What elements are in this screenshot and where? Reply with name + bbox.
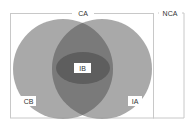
- svg-text:CB: CB: [24, 98, 34, 105]
- ca-label: CA: [72, 8, 94, 18]
- cb-label: CB: [21, 96, 36, 106]
- venn-diagram: CA NCA IB CB IA: [0, 0, 193, 127]
- nca-label: NCA: [159, 8, 182, 18]
- svg-text:CA: CA: [78, 10, 88, 17]
- svg-text:IA: IA: [132, 98, 139, 105]
- ia-label: IA: [128, 96, 142, 106]
- ib-label: IB: [74, 63, 91, 73]
- svg-text:NCA: NCA: [163, 10, 178, 17]
- svg-text:IB: IB: [79, 65, 86, 72]
- nca-box: [153, 13, 184, 118]
